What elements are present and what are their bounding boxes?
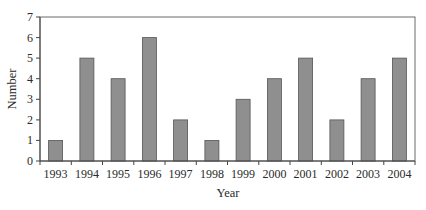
bar-1994 bbox=[80, 58, 94, 161]
y-tick-label: 3 bbox=[27, 92, 33, 106]
bar-1995 bbox=[111, 79, 125, 161]
x-tick-label: 1997 bbox=[169, 167, 193, 181]
y-tick-label: 2 bbox=[27, 113, 33, 127]
y-tick-label: 5 bbox=[27, 51, 33, 65]
y-tick-label: 1 bbox=[27, 133, 33, 147]
x-axis-title: Year bbox=[216, 186, 240, 200]
y-axis: 01234567 bbox=[27, 10, 40, 168]
x-tick-label: 2004 bbox=[387, 167, 411, 181]
y-axis-title: Number bbox=[5, 68, 19, 110]
x-tick-label: 1995 bbox=[106, 167, 130, 181]
x-tick-label: 2002 bbox=[325, 167, 349, 181]
y-tick-label: 0 bbox=[27, 154, 33, 168]
x-tick-label: 1998 bbox=[200, 167, 224, 181]
bar-2001 bbox=[299, 58, 313, 161]
x-tick-label: 1994 bbox=[75, 167, 99, 181]
plot-area-frame bbox=[40, 17, 415, 161]
x-tick-label: 2001 bbox=[294, 167, 318, 181]
bars bbox=[49, 38, 407, 161]
x-tick-label: 1996 bbox=[137, 167, 161, 181]
x-tick-label: 2003 bbox=[356, 167, 380, 181]
y-tick-label: 7 bbox=[27, 10, 33, 24]
bar-1999 bbox=[236, 99, 250, 161]
bar-1998 bbox=[205, 140, 219, 161]
y-tick-label: 4 bbox=[27, 72, 33, 86]
bar-chart: 01234567 1993199419951996199719981999200… bbox=[0, 0, 426, 210]
bar-2004 bbox=[392, 58, 406, 161]
x-tick-label: 2000 bbox=[262, 167, 286, 181]
bar-2003 bbox=[361, 79, 375, 161]
bar-2002 bbox=[330, 120, 344, 161]
y-tick-label: 6 bbox=[27, 31, 33, 45]
x-tick-label: 1999 bbox=[231, 167, 255, 181]
bar-1996 bbox=[142, 38, 156, 161]
bar-1997 bbox=[174, 120, 188, 161]
x-tick-label: 1993 bbox=[44, 167, 68, 181]
bar-2000 bbox=[267, 79, 281, 161]
x-axis: 1993199419951996199719981999200020012002… bbox=[40, 161, 415, 181]
bar-1993 bbox=[49, 140, 63, 161]
